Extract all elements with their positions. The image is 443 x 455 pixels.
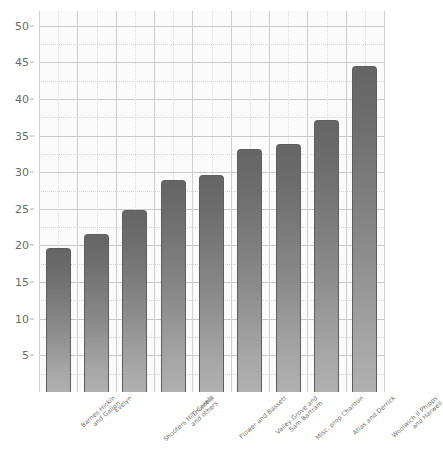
- y-axis-tick-mark: [30, 208, 34, 209]
- y-axis-tick-label: 45: [15, 56, 29, 69]
- y-axis-tick-mark: [30, 98, 34, 99]
- x-axis-tick-label-line1: Woolwich II Phipps: [390, 394, 439, 439]
- chart-title: [120, 0, 380, 6]
- y-axis-tick-label: 10: [15, 312, 29, 325]
- plot-area: [39, 11, 384, 392]
- y-axis-tick-label: 15: [15, 276, 29, 289]
- bar[interactable]: [276, 144, 301, 392]
- y-axis-tick-mark: [30, 172, 34, 173]
- y-axis-tick-mark: [30, 62, 34, 63]
- y-axis-tick-mark: [30, 318, 34, 319]
- y-axis-tick-label: 35: [15, 129, 29, 142]
- bar[interactable]: [352, 66, 377, 392]
- bars-layer: [39, 11, 384, 392]
- x-axis-tick-label: Woolwich II Phippsand Harwell: [390, 394, 443, 444]
- bar[interactable]: [84, 234, 109, 392]
- y-axis-tick-label: 25: [15, 202, 29, 215]
- bar[interactable]: [314, 120, 339, 392]
- bar[interactable]: [46, 248, 71, 392]
- x-axis-labels: Barnes Hickinand GallonEvelynShooters Hi…: [39, 392, 384, 455]
- bar[interactable]: [237, 149, 262, 392]
- y-axis-tick-mark: [30, 25, 34, 26]
- bar[interactable]: [122, 210, 147, 392]
- x-axis-tick-label: Barnes Hickinand Gallon: [79, 394, 121, 434]
- y-axis-tick-label: 5: [22, 349, 29, 362]
- y-axis-tick-mark: [30, 282, 34, 283]
- y-axis-tick-mark: [30, 245, 34, 246]
- y-axis-tick-label: 40: [15, 92, 29, 105]
- y-axis: 5045403530252015105: [0, 11, 34, 392]
- y-axis-tick-mark: [30, 135, 34, 136]
- y-axis-tick-mark: [30, 355, 34, 356]
- bar[interactable]: [199, 175, 224, 392]
- y-axis-tick-label: 30: [15, 166, 29, 179]
- y-axis-tick-label: 20: [15, 239, 29, 252]
- bar[interactable]: [161, 180, 186, 392]
- y-axis-tick-label: 50: [15, 19, 29, 32]
- x-axis-tick-label-line2: and others: [166, 399, 219, 448]
- gridline-major-v: [384, 11, 385, 392]
